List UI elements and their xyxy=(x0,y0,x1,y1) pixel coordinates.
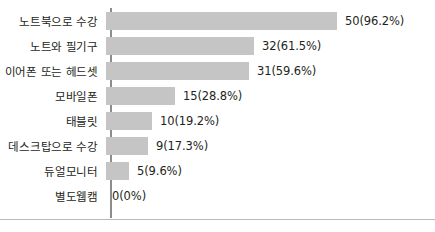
bar-zone: 5(9.6%) xyxy=(104,158,435,183)
bar-row: 노트와 필기구 32(61.5%) xyxy=(0,33,435,58)
category-label: 노트와 필기구 xyxy=(0,38,104,54)
category-label: 이어폰 또는 헤드셋 xyxy=(0,63,104,79)
bar-value-label: 50(96.2%) xyxy=(345,14,404,28)
category-label: 태블릿 xyxy=(0,113,104,129)
bar-value-label: 9(17.3%) xyxy=(156,139,208,153)
bar-row: 모바일폰 15(28.8%) xyxy=(0,83,435,108)
bar xyxy=(106,112,152,130)
bar-value-label: 5(9.6%) xyxy=(137,164,182,178)
bar-zone: 32(61.5%) xyxy=(104,33,435,58)
bar-row: 이어폰 또는 헤드셋 31(59.6%) xyxy=(0,58,435,83)
horizontal-bar-chart: 노트북으로 수강 50(96.2%) 노트와 필기구 32(61.5%) 이어폰… xyxy=(0,0,435,232)
bar-zone: 31(59.6%) xyxy=(104,58,435,83)
bar-value-label: 32(61.5%) xyxy=(262,39,321,53)
bar-value-label: 15(28.8%) xyxy=(183,89,242,103)
bar xyxy=(106,12,337,30)
category-label: 데스크탑으로 수강 xyxy=(0,138,104,154)
bar-zone: 0(0%) xyxy=(104,183,435,208)
bar-zone: 50(96.2%) xyxy=(104,8,435,33)
category-label: 노트북으로 수강 xyxy=(0,13,104,29)
category-label: 듀얼모니터 xyxy=(0,163,104,179)
bar xyxy=(106,87,175,105)
bar-zone: 9(17.3%) xyxy=(104,133,435,158)
chart-bottom-border xyxy=(0,219,435,220)
bar-row: 데스크탑으로 수강 9(17.3%) xyxy=(0,133,435,158)
plot-area: 노트북으로 수강 50(96.2%) 노트와 필기구 32(61.5%) 이어폰… xyxy=(0,8,435,218)
bar-zone: 15(28.8%) xyxy=(104,83,435,108)
bar-zone: 10(19.2%) xyxy=(104,108,435,133)
bar-row: 별도웹캠 0(0%) xyxy=(0,183,435,208)
bar-value-label: 31(59.6%) xyxy=(257,64,316,78)
category-label: 별도웹캠 xyxy=(0,188,104,204)
bar-row: 듀얼모니터 5(9.6%) xyxy=(0,158,435,183)
bar xyxy=(106,37,254,55)
bar-row: 태블릿 10(19.2%) xyxy=(0,108,435,133)
bar xyxy=(106,137,148,155)
bar xyxy=(106,162,129,180)
bar xyxy=(106,62,249,80)
bar-value-label: 0(0%) xyxy=(112,189,146,203)
category-label: 모바일폰 xyxy=(0,88,104,104)
bar-value-label: 10(19.2%) xyxy=(160,114,219,128)
bar-row: 노트북으로 수강 50(96.2%) xyxy=(0,8,435,33)
